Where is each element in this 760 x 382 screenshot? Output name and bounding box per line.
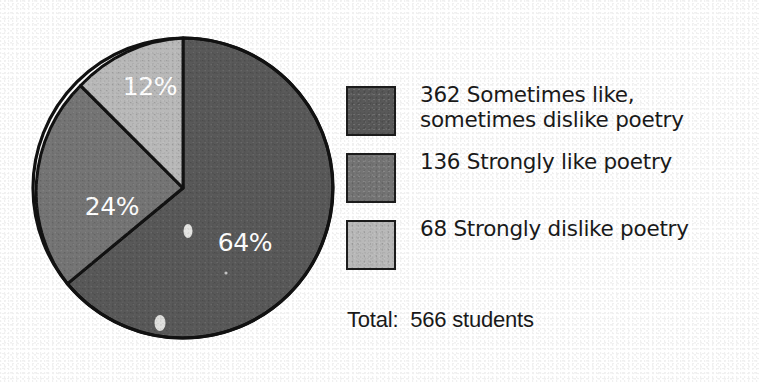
scan-speck — [184, 224, 193, 238]
legend-item-sometimes-like-sometimes-dislike: 362 Sometimes like, sometimes dislike po… — [346, 80, 756, 138]
legend-item-label: 68 Strongly dislike poetry — [420, 214, 689, 242]
scan-speck — [224, 271, 227, 274]
total-students-label: Total: 566 students — [347, 307, 534, 333]
legend-item-label: 136 Strongly like poetry — [420, 147, 672, 175]
pie-label-strongly-like: 24% — [85, 192, 140, 221]
pie-svg: 12% 24% 64% — [30, 33, 340, 345]
pie-chart-figure: 12% 24% 64% 362 Sometimes like, sometime… — [0, 0, 760, 382]
pie-label-strongly-dislike: 12% — [123, 72, 178, 101]
legend-swatch-icon — [346, 86, 396, 136]
legend-swatch-icon — [346, 153, 396, 203]
legend-item-strongly-dislike: 68 Strongly dislike poetry — [346, 214, 756, 272]
legend: 362 Sometimes like, sometimes dislike po… — [346, 80, 756, 281]
legend-item-strongly-like: 136 Strongly like poetry — [346, 147, 756, 205]
scan-speck — [155, 315, 166, 331]
pie-label-sometimes-like-sometimes-dislike: 64% — [218, 228, 273, 257]
legend-swatch-icon — [346, 220, 396, 270]
legend-item-label: 362 Sometimes like, sometimes dislike po… — [420, 80, 684, 132]
pie-chart-graphic: 12% 24% 64% — [30, 33, 340, 345]
